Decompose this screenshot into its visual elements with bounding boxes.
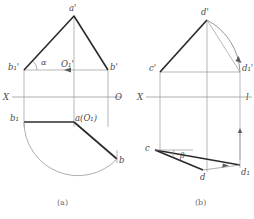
plan-segment-c-d1 [155, 150, 240, 165]
label-a-prime: a' [69, 3, 76, 13]
diagram-b-group: d' c' d₁' c β d d₁ X l (b) [136, 7, 253, 207]
plan-segment-d-d1 [203, 165, 240, 170]
label-d1: d₁ [241, 167, 250, 177]
label-b-prime: b' [110, 62, 118, 72]
label-angle-alpha: α [41, 58, 47, 67]
label-b1-prime: b₁' [8, 62, 19, 72]
label-d: d [200, 172, 206, 182]
label-ground-l-b: l [246, 92, 249, 102]
label-b: b [119, 155, 124, 165]
label-a-O1: a(O₁) [75, 113, 97, 123]
segment-d-prime-d1-prime [207, 20, 240, 72]
caption-a: (a) [57, 198, 68, 207]
label-ground-X-a: X [2, 92, 10, 102]
arc-arrow-b [236, 56, 242, 63]
segment-c-prime-d-prime [160, 20, 207, 72]
label-c-prime: c' [149, 63, 156, 73]
label-d-prime: d' [201, 7, 209, 17]
plan-segment-c-d [155, 150, 203, 170]
label-ground-O-a: O [115, 92, 122, 102]
geometry-diagram: a' b₁' O₁' b' α b₁ a(O₁) b X O (a) [0, 0, 254, 219]
label-angle-beta: β [179, 151, 185, 160]
label-O1-prime: O₁' [61, 59, 74, 69]
diagram-a-group: a' b₁' O₁' b' α b₁ a(O₁) b X O (a) [2, 3, 124, 207]
angle-arc-alpha [34, 62, 38, 71]
rotation-arc-a [24, 122, 117, 176]
figure-container: a' b₁' O₁' b' α b₁ a(O₁) b X O (a) [0, 0, 254, 219]
label-d1-prime: d₁' [242, 63, 253, 73]
tick-arrow-d1 [238, 128, 242, 133]
label-c: c [145, 143, 150, 153]
label-b1: b₁ [10, 113, 19, 123]
label-ground-X-b: X [136, 92, 144, 102]
caption-b: (b) [195, 198, 206, 207]
plan-segment-a-b [74, 122, 117, 159]
